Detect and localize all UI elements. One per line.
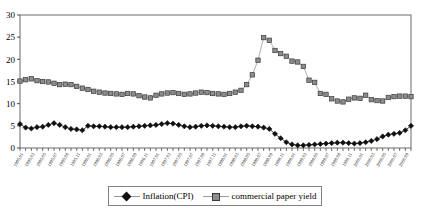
data-point (267, 38, 271, 42)
data-point (46, 80, 50, 84)
data-point (256, 58, 260, 62)
data-point (397, 130, 402, 135)
data-point (182, 124, 187, 129)
data-point (255, 124, 260, 129)
data-point (199, 123, 204, 128)
legend-label-cp-yield: commercial paper yield (232, 191, 317, 201)
series-line-cp-yield (20, 38, 411, 102)
data-point (295, 60, 299, 64)
data-point (323, 141, 328, 146)
data-point (108, 91, 112, 95)
legend-item-inflation: Inflation(CPI) (114, 191, 194, 201)
data-point (171, 90, 175, 94)
data-point (352, 141, 357, 146)
data-point (227, 91, 231, 95)
legend-label-inflation: Inflation(CPI) (143, 191, 194, 201)
y-tick-label: 25 (6, 32, 16, 42)
data-point (375, 98, 379, 102)
data-point (91, 89, 95, 93)
data-point (244, 123, 249, 128)
data-point (386, 132, 391, 137)
data-point (142, 95, 146, 99)
data-point (250, 124, 255, 129)
data-point (23, 125, 28, 130)
data-point (18, 79, 22, 83)
data-point (346, 141, 351, 146)
data-point (159, 121, 164, 126)
data-point (397, 94, 401, 98)
data-point (261, 125, 266, 130)
data-point (125, 91, 129, 95)
data-point (222, 92, 226, 96)
data-point (358, 96, 362, 100)
data-point (341, 100, 345, 104)
data-point (307, 78, 311, 82)
data-point (284, 140, 289, 145)
data-point (97, 124, 102, 129)
data-point (380, 134, 385, 139)
data-point (199, 90, 203, 94)
chart-legend: Inflation(CPI) commercial paper yield (108, 186, 322, 206)
data-point (239, 88, 243, 92)
data-point (278, 51, 282, 55)
plot-frame (20, 15, 411, 148)
y-tick-label: 15 (6, 77, 16, 87)
data-point (306, 142, 311, 147)
data-point (210, 123, 215, 128)
data-point (97, 90, 101, 94)
chart-container: 0510152025301995.011995.031995.051995.07… (0, 0, 427, 213)
data-point (233, 125, 238, 130)
data-point (244, 82, 248, 86)
data-point (102, 124, 107, 129)
data-point (176, 91, 180, 95)
data-point (301, 143, 306, 148)
data-point (165, 121, 170, 126)
data-point (51, 121, 56, 126)
data-point (103, 91, 107, 95)
data-point (363, 140, 368, 145)
data-point (148, 123, 153, 128)
data-point (91, 124, 96, 129)
data-point (301, 64, 305, 68)
data-point (284, 54, 288, 58)
data-point (40, 79, 44, 83)
square-marker-icon (203, 191, 229, 201)
data-point (23, 78, 27, 82)
data-point (210, 91, 214, 95)
data-point (63, 82, 67, 86)
data-point (352, 96, 356, 100)
data-point (165, 91, 169, 95)
data-point (148, 96, 152, 100)
data-point (312, 142, 317, 147)
data-point (380, 99, 384, 103)
data-point (346, 97, 350, 101)
data-point (363, 93, 367, 97)
data-point (131, 92, 135, 96)
data-point (34, 125, 39, 130)
data-point (233, 90, 237, 94)
data-point (290, 59, 294, 63)
data-point (318, 141, 323, 146)
data-point (159, 92, 163, 96)
data-point (312, 80, 316, 84)
data-point (57, 122, 62, 127)
data-point (120, 92, 124, 96)
data-point (74, 84, 78, 88)
data-point (86, 87, 90, 91)
y-tick-label: 20 (6, 55, 16, 65)
data-point (238, 124, 243, 129)
y-tick-label: 30 (6, 10, 16, 20)
y-tick-label: 5 (11, 121, 16, 131)
data-point (68, 126, 73, 131)
data-point (125, 125, 130, 130)
data-point (40, 124, 45, 129)
data-point (69, 82, 73, 86)
data-point (114, 92, 118, 96)
legend-item-cp-yield: commercial paper yield (203, 191, 317, 201)
data-point (114, 125, 119, 130)
data-point (176, 122, 181, 127)
y-tick-label: 0 (11, 143, 16, 153)
data-point (170, 121, 175, 126)
data-point (369, 97, 373, 101)
data-point (391, 131, 396, 136)
